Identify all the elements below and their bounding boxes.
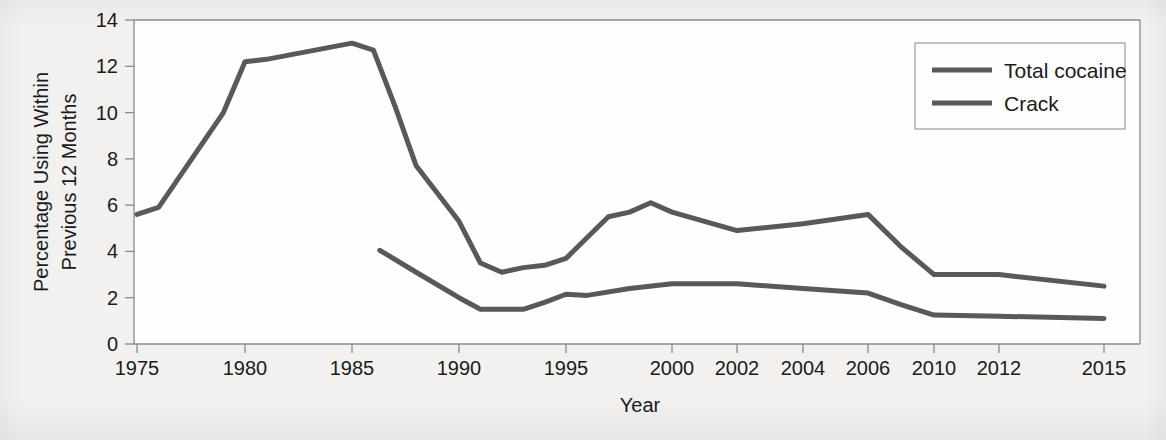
legend-box [915, 43, 1125, 129]
x-axis-tick-label: 1995 [544, 357, 589, 379]
y-axis-title-line1: Percentage Using Within [30, 72, 52, 292]
x-axis-tick-label: 1975 [115, 357, 160, 379]
y-axis-tick-label: 6 [107, 194, 118, 216]
x-axis-tick-label: 1990 [437, 357, 482, 379]
x-axis-tick-label: 1980 [223, 357, 268, 379]
y-axis-tick-label: 2 [107, 287, 118, 309]
x-axis-title: Year [620, 394, 661, 416]
x-axis-tick-label: 2015 [1082, 357, 1127, 379]
x-axis-tick-label: 2002 [715, 357, 760, 379]
y-axis-tick-label: 8 [107, 148, 118, 170]
y-axis-tick-label: 4 [107, 240, 118, 262]
y-axis: 02468101214 [96, 9, 134, 355]
chart-legend: Total cocaine Crack [915, 43, 1127, 129]
y-axis-tick-label: 10 [96, 102, 118, 124]
legend-label-1: Crack [1004, 92, 1059, 115]
x-axis-tick-label: 1985 [330, 357, 375, 379]
y-axis-tick-label: 14 [96, 9, 118, 31]
chart-page: 02468101214 1975198019851990199520002002… [0, 0, 1166, 440]
line-chart: 02468101214 1975198019851990199520002002… [0, 0, 1166, 440]
legend-label-0: Total cocaine [1004, 59, 1127, 82]
x-axis-tick-label: 2004 [781, 357, 826, 379]
x-axis-tick-label: 2006 [846, 357, 891, 379]
y-axis-title: Percentage Using Within Previous 12 Mont… [30, 72, 80, 292]
x-axis-tick-label: 2012 [977, 357, 1022, 379]
y-axis-tick-label: 0 [107, 333, 118, 355]
x-axis-tick-label: 2010 [912, 357, 957, 379]
x-axis: 1975198019851990199520002002200420062010… [115, 344, 1127, 379]
x-axis-tick-label: 2000 [650, 357, 695, 379]
y-axis-tick-label: 12 [96, 55, 118, 77]
y-axis-title-line2: Previous 12 Months [58, 94, 80, 271]
